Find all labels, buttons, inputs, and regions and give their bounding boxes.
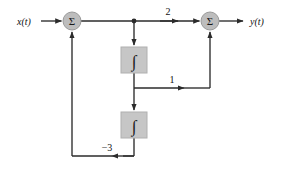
input-summer[interactable]: Σ bbox=[63, 12, 81, 30]
block-diagram-canvas: Σ Σ ∫ ∫ x(t) y(t) 2 1 −3 bbox=[0, 0, 283, 172]
integrator-block-2[interactable]: ∫ bbox=[121, 112, 147, 138]
output-summer-glyph: Σ bbox=[207, 15, 213, 27]
output-summer[interactable]: Σ bbox=[201, 12, 219, 30]
gain-label-forward-1: 1 bbox=[170, 74, 175, 85]
output-signal-label: y(t) bbox=[249, 16, 265, 28]
input-signal-label: x(t) bbox=[16, 16, 32, 28]
integrator-block-1[interactable]: ∫ bbox=[121, 47, 147, 73]
gain-label-forward-2: 2 bbox=[166, 6, 171, 17]
input-summer-glyph: Σ bbox=[69, 15, 75, 27]
pickoff-node-dot bbox=[132, 19, 137, 24]
gain-label-feedback-minus-3: −3 bbox=[102, 142, 113, 153]
block-diagram-svg: Σ Σ ∫ ∫ x(t) y(t) 2 1 −3 bbox=[0, 0, 283, 172]
